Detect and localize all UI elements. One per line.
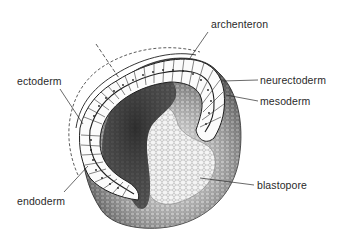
label-neurectoderm: neurectoderm xyxy=(260,74,326,86)
leader-neurectoderm xyxy=(222,80,258,81)
embryo-diagram xyxy=(0,0,346,247)
label-mesoderm: mesoderm xyxy=(260,95,310,107)
leader-archenteron xyxy=(190,32,208,58)
leader-ectoderm xyxy=(60,89,83,124)
label-endoderm: endoderm xyxy=(17,195,65,207)
label-archenteron: archenteron xyxy=(211,18,268,30)
label-blastopore: blastopore xyxy=(257,179,307,191)
label-ectoderm: ectoderm xyxy=(17,75,62,87)
